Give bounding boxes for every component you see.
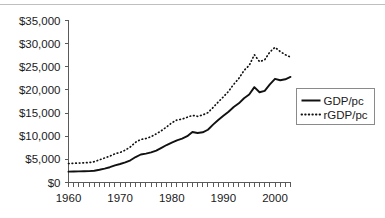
y-axis-tick-label: $15,000: [19, 107, 61, 119]
y-axis-tick-label: $25,000: [19, 61, 61, 73]
y-axis-tick-label: $30,000: [19, 38, 61, 50]
x-axis-tick-labels: 19601970198019902000: [56, 192, 288, 204]
gdp-per-capita-line-chart: $35,000$30,000$25,000$20,000$15,000$10,0…: [0, 0, 385, 218]
y-axis-tick-label: $5,000: [25, 153, 60, 165]
chart-figure: $35,000$30,000$25,000$20,000$15,000$10,0…: [0, 0, 385, 218]
legend-label-gdp-pc: GDP/pc: [324, 95, 365, 107]
series-line-gdp-pc: [69, 77, 291, 172]
chart-legend: GDP/pc rGDP/pc: [297, 89, 375, 125]
y-axis-tick-label: $0: [48, 177, 61, 189]
y-axis-tick-label: $35,000: [19, 15, 61, 27]
x-axis-tick-label: 1960: [56, 192, 82, 204]
x-axis-tick-label: 2000: [262, 192, 288, 204]
y-axis-tick-labels: $35,000$30,000$25,000$20,000$15,000$10,0…: [19, 15, 61, 189]
y-axis-tick-label: $10,000: [19, 130, 61, 142]
x-axis-tick-label: 1980: [159, 192, 185, 204]
x-axis-tick-marks: [69, 183, 291, 187]
y-axis-tick-label: $20,000: [19, 84, 61, 96]
x-axis-tick-label: 1990: [211, 192, 237, 204]
series-line-rgdp-pc: [69, 47, 291, 163]
y-axis-tick-marks: [65, 21, 69, 183]
legend-label-rgdp-pc: rGDP/pc: [324, 109, 368, 121]
x-axis-tick-label: 1970: [107, 192, 133, 204]
